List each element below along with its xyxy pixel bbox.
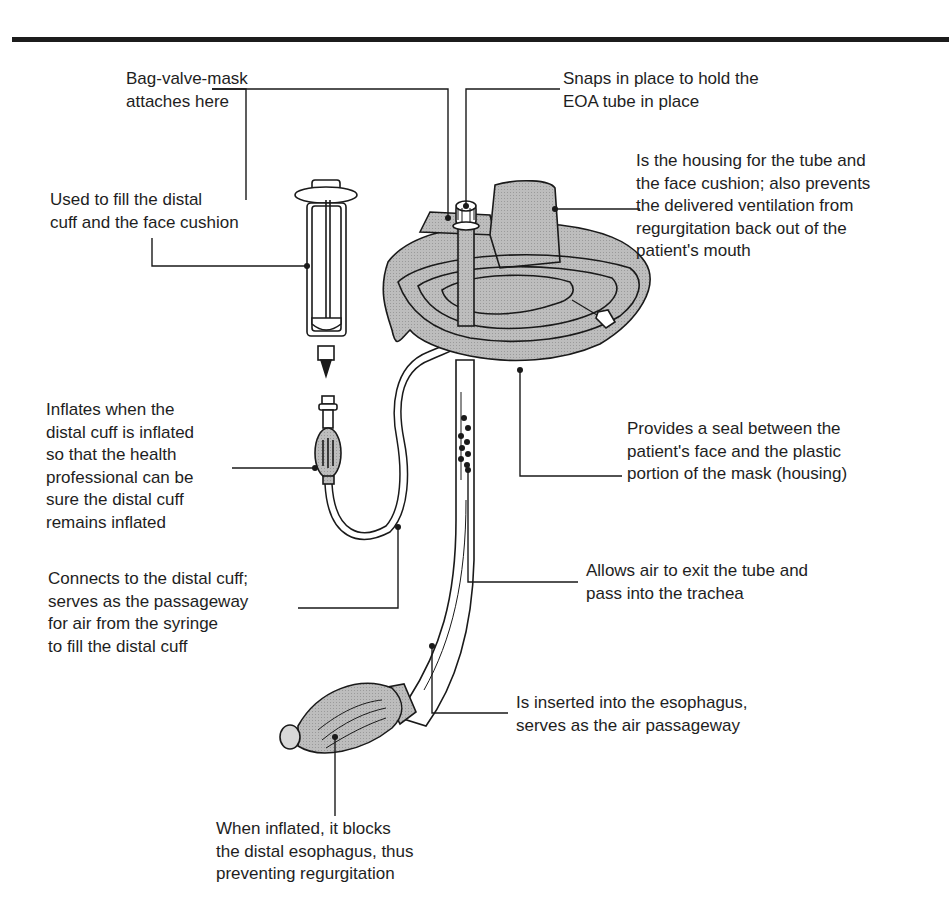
mask-housing [383, 181, 650, 361]
label-syringe: Used to fill the distal cuff and the fac… [50, 189, 239, 234]
label-air-holes: Allows air to exit the tube and pass int… [586, 560, 808, 605]
pilot-balloon [315, 396, 341, 484]
label-distal-cuff: When inflated, it blocks the distal esop… [216, 818, 414, 886]
label-esophageal-tube: Is inserted into the esophagus, serves a… [516, 692, 748, 737]
label-snaps-in-place: Snaps in place to hold the EOA tube in p… [563, 68, 759, 113]
label-inflation-line: Connects to the distal cuff; serves as t… [48, 568, 248, 658]
syringe [295, 180, 357, 376]
label-pilot-balloon: Inflates when the distal cuff is inflate… [46, 399, 194, 534]
label-housing: Is the housing for the tube and the face… [636, 150, 870, 263]
distal-cuff [280, 683, 416, 753]
esophageal-tube [394, 360, 474, 726]
label-bvm-attach: Bag-valve-mask attaches here [126, 68, 248, 113]
inflation-line [325, 338, 462, 539]
label-face-cushion: Provides a seal between the patient's fa… [627, 418, 847, 486]
